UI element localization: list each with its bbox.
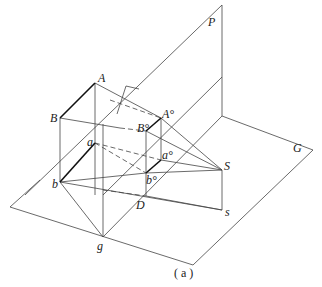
diagram-lines — [0, 0, 322, 287]
label-point-a0-upper: A° — [162, 108, 174, 120]
label-point-a: a — [87, 136, 93, 148]
label-point-b0: b° — [146, 174, 157, 186]
label-point-g: g — [97, 240, 103, 252]
perspective-diagram: P G A B a b A° B° a° b° S s D g ( a ) — [0, 0, 322, 287]
label-plane-g: G — [293, 142, 302, 154]
label-point-a0: a° — [162, 149, 173, 161]
label-point-s-upper: S — [224, 160, 230, 172]
figure-caption: ( a ) — [174, 266, 193, 281]
label-plane-p: P — [208, 16, 215, 28]
label-point-s: s — [225, 206, 230, 218]
label-point-b: b — [52, 178, 58, 190]
label-point-a-upper: A — [98, 72, 105, 84]
label-point-d: D — [136, 199, 145, 211]
label-point-b0-upper: B° — [137, 122, 149, 134]
label-point-b-upper: B — [50, 112, 57, 124]
